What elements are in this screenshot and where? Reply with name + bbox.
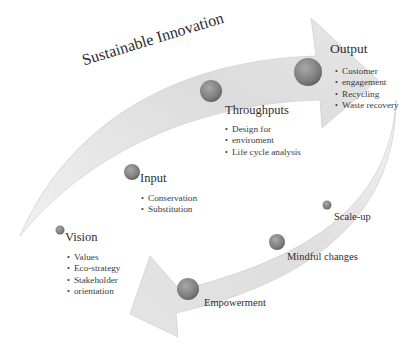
- bullet-item: Design for: [225, 124, 301, 135]
- bullet-item: Waste recovery: [335, 100, 399, 111]
- stage-mindful-changes-label: Mindful changes: [287, 251, 358, 262]
- bullet-item: Customer: [335, 66, 399, 77]
- bullet-item-text: orientation: [74, 286, 114, 296]
- stage-throughputs-label: Throughputs: [225, 103, 289, 118]
- stage-input-label: Input: [140, 171, 166, 186]
- stage-input-items: Conservation Substitution: [141, 193, 197, 216]
- stage-vision-items: Values Eco-strategy Stakeholder orientat…: [67, 252, 120, 297]
- bullet-item: Values: [67, 252, 120, 263]
- sphere-input: [124, 164, 140, 180]
- sphere-mindful-changes: [269, 234, 285, 250]
- sphere-output: [294, 58, 322, 86]
- bullet-item-cont: engagement: [335, 77, 399, 88]
- sphere-scale-up: [323, 201, 332, 210]
- bullet-item: Eco-strategy: [67, 263, 120, 274]
- bullet-item: Life cycle analysis: [225, 147, 301, 158]
- stage-vision-label: Vision: [65, 230, 98, 245]
- bullet-item: Substitution: [141, 204, 197, 215]
- stage-output-label: Output: [330, 41, 368, 57]
- bullet-item-cont: orientation: [67, 286, 120, 297]
- bullet-item-text: engagement: [342, 77, 386, 87]
- stage-output-items: Customer engagement Recycling Waste reco…: [335, 66, 399, 111]
- stage-empowerment-label: Empowerment: [204, 297, 266, 308]
- stage-throughputs-items: Design for enviroment Life cycle analysi…: [225, 124, 301, 158]
- sphere-empowerment: [177, 278, 199, 300]
- bullet-item-cont: enviroment: [225, 135, 301, 146]
- sphere-throughputs: [200, 80, 222, 102]
- bullet-item: Conservation: [141, 193, 197, 204]
- bullet-item-text: enviroment: [232, 135, 274, 145]
- stage-scale-up-label: Scale-up: [334, 211, 371, 222]
- sphere-vision: [56, 226, 65, 235]
- bullet-item: Stakeholder: [67, 275, 120, 286]
- bullet-item: Recycling: [335, 89, 399, 100]
